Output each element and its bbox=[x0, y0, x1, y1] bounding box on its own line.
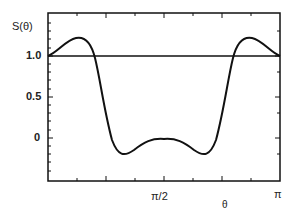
y-tick-0-5: 0.5 bbox=[26, 90, 41, 102]
x-tick-pi: π bbox=[274, 188, 282, 200]
y-axis-label: S(θ) bbox=[12, 20, 33, 32]
x-axis-label: θ bbox=[222, 199, 228, 210]
y-tick-1: 1.0 bbox=[26, 49, 41, 61]
y-tick-0: 0 bbox=[34, 131, 40, 143]
chart-canvas bbox=[0, 0, 294, 218]
x-tick-pi-2: π/2 bbox=[151, 190, 168, 202]
s-theta-curve bbox=[48, 38, 280, 154]
